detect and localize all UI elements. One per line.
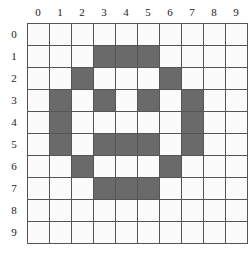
grid-cell-empty	[203, 155, 225, 177]
column-label: 5	[137, 6, 159, 22]
grid-cell-empty	[159, 89, 181, 111]
grid-cell-empty	[181, 23, 203, 45]
grid-cell-empty	[159, 133, 181, 155]
grid-cell-empty	[71, 133, 93, 155]
grid-cell-empty	[27, 67, 49, 89]
grid-cell-empty	[93, 199, 115, 221]
grid-cell-empty	[27, 155, 49, 177]
grid-cell-filled	[137, 89, 159, 111]
grid-cell-empty	[115, 199, 137, 221]
grid-cell-filled	[93, 133, 115, 155]
grid-cell-empty	[225, 23, 247, 45]
grid-cell-empty	[27, 133, 49, 155]
grid-cell-empty	[159, 45, 181, 67]
grid-cell-empty	[137, 221, 159, 243]
grid-cell-empty	[225, 89, 247, 111]
grid-cell-empty	[27, 23, 49, 45]
grid-cell-empty	[27, 177, 49, 199]
grid-cell-empty	[49, 221, 71, 243]
column-label: 4	[115, 6, 137, 22]
grid-cell-empty	[93, 67, 115, 89]
grid-cell-empty	[27, 111, 49, 133]
grid-cell-empty	[137, 23, 159, 45]
grid-cell-empty	[181, 155, 203, 177]
grid-cell-empty	[71, 89, 93, 111]
grid-cell-empty	[225, 133, 247, 155]
grid-cell-empty	[49, 67, 71, 89]
grid-cell-empty	[27, 45, 49, 67]
grid-cell-empty	[203, 221, 225, 243]
grid-cell-empty	[49, 177, 71, 199]
grid-cell-empty	[71, 23, 93, 45]
grid-cell-empty	[93, 221, 115, 243]
grid-cell-empty	[27, 221, 49, 243]
row-label: 0	[6, 23, 22, 45]
grid-cell-empty	[137, 155, 159, 177]
grid-cell-empty	[71, 221, 93, 243]
row-label: 9	[6, 221, 22, 243]
grid-cell-filled	[93, 45, 115, 67]
row-label: 3	[6, 89, 22, 111]
column-label: 3	[93, 6, 115, 22]
grid-cell-filled	[115, 133, 137, 155]
grid-cell-empty	[203, 23, 225, 45]
column-label: 8	[203, 6, 225, 22]
grid-cell-empty	[93, 155, 115, 177]
grid-cell-empty	[71, 177, 93, 199]
grid-cell-empty	[115, 67, 137, 89]
column-label: 6	[159, 6, 181, 22]
grid-cell-filled	[93, 89, 115, 111]
grid-cell-empty	[115, 23, 137, 45]
grid-cell-empty	[137, 67, 159, 89]
row-label: 7	[6, 177, 22, 199]
column-label: 7	[181, 6, 203, 22]
grid-cell-empty	[159, 23, 181, 45]
grid-cell-filled	[137, 45, 159, 67]
row-label: 5	[6, 133, 22, 155]
row-label: 6	[6, 155, 22, 177]
grid-cell-empty	[159, 199, 181, 221]
grid-cell-filled	[181, 111, 203, 133]
grid-cell-empty	[159, 221, 181, 243]
column-label: 9	[225, 6, 247, 22]
grid-cell-empty	[181, 221, 203, 243]
grid-cell-empty	[137, 199, 159, 221]
grid-cell-filled	[71, 155, 93, 177]
grid-cell-empty	[71, 199, 93, 221]
grid-cell-empty	[203, 177, 225, 199]
grid-cell-empty	[225, 155, 247, 177]
grid-cell-filled	[181, 133, 203, 155]
row-label: 2	[6, 67, 22, 89]
pixel-grid	[27, 23, 248, 244]
grid-cell-filled	[49, 133, 71, 155]
grid-cell-empty	[203, 67, 225, 89]
row-labels: 0123456789	[6, 23, 22, 243]
grid-cell-empty	[49, 199, 71, 221]
row-label: 1	[6, 45, 22, 67]
grid-cell-empty	[203, 89, 225, 111]
grid-cell-filled	[49, 111, 71, 133]
grid-cell-empty	[49, 23, 71, 45]
grid-cell-empty	[225, 111, 247, 133]
grid-cell-empty	[115, 89, 137, 111]
grid-cell-filled	[159, 67, 181, 89]
row-label: 4	[6, 111, 22, 133]
grid-cell-empty	[225, 45, 247, 67]
grid-cell-empty	[115, 155, 137, 177]
grid-cell-filled	[181, 89, 203, 111]
grid-cell-filled	[49, 89, 71, 111]
grid-cell-empty	[93, 111, 115, 133]
grid-cell-empty	[203, 199, 225, 221]
grid-cell-empty	[181, 67, 203, 89]
grid-cell-empty	[49, 155, 71, 177]
grid-cell-empty	[159, 177, 181, 199]
grid-cell-empty	[181, 177, 203, 199]
grid-cell-filled	[115, 45, 137, 67]
grid-cell-empty	[203, 45, 225, 67]
row-label: 8	[6, 199, 22, 221]
grid-cell-empty	[225, 67, 247, 89]
grid-cell-empty	[115, 111, 137, 133]
grid-cell-empty	[181, 45, 203, 67]
column-label: 1	[49, 6, 71, 22]
grid-cell-empty	[225, 199, 247, 221]
